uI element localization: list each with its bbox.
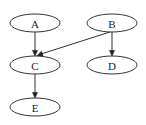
node-c: C: [10, 56, 60, 74]
edge-c-to-e: [33, 74, 38, 98]
edge-a-to-c: [33, 32, 38, 56]
edge-b-to-c: [37, 32, 111, 56]
node-e: E: [10, 98, 60, 116]
arrowhead-icon: [110, 51, 115, 57]
node-label: E: [32, 102, 39, 114]
graph-diagram: A B C D E: [0, 0, 146, 125]
node-a: A: [10, 14, 60, 32]
node-label: B: [108, 18, 115, 30]
node-label: C: [31, 60, 38, 72]
node-d: D: [87, 56, 137, 74]
arrowhead-icon: [33, 93, 38, 99]
nodes: A B C D E: [10, 14, 137, 116]
node-b: B: [87, 14, 137, 32]
arrowhead-icon: [37, 51, 44, 56]
node-label: A: [31, 18, 39, 30]
edge-b-to-d: [110, 32, 115, 56]
edge-line: [41, 32, 110, 54]
arrowhead-icon: [33, 51, 38, 57]
graph-svg: A B C D E: [0, 0, 146, 125]
node-label: D: [108, 60, 116, 72]
